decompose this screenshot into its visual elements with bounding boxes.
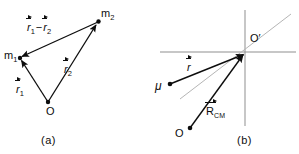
vector-label-r1: r1 <box>16 84 24 95</box>
vector-label-r1-minus-r2: r1−r2 <box>27 22 51 33</box>
panel-a: m1 m2 O r1 r2 r1−r2 (a) <box>0 0 150 154</box>
panel-b-vector-graphic <box>149 0 299 154</box>
r1-subscript: 1 <box>20 89 24 98</box>
point-origin-b-dot <box>188 126 193 131</box>
Rcm-base: R <box>206 105 214 117</box>
point-label-m1: m1 <box>4 50 17 61</box>
vector-label-r: r <box>187 62 191 73</box>
point-label-m2: m2 <box>101 8 114 19</box>
point-origin-dot <box>46 100 50 104</box>
panel-b: O′ μ O r RCM (b) <box>149 0 299 154</box>
r-base: r <box>187 61 191 73</box>
point-label-origin-b: O <box>175 128 184 139</box>
diff-second-subscript: 2 <box>47 27 51 36</box>
Rcm-subscript: CM <box>214 112 225 119</box>
Rcm-overbar-arrow: R <box>206 106 214 117</box>
vector-r1-shaft <box>22 61 49 103</box>
figure-container: m1 m2 O r1 r2 r1−r2 (a) <box>0 0 299 154</box>
m2-subscript: 2 <box>110 13 114 22</box>
point-label-mu: μ <box>155 80 162 92</box>
point-label-origin-prime: O′ <box>250 33 261 44</box>
caption-panel-b: (b) <box>237 135 252 146</box>
m1-base: m <box>4 49 13 61</box>
vector-r2-shaft <box>48 25 96 102</box>
caption-panel-a: (a) <box>41 135 56 146</box>
m2-base: m <box>101 7 110 19</box>
diff-first-subscript: 1 <box>31 27 35 36</box>
vector-label-Rcm: RCM <box>206 106 225 117</box>
point-m2-dot <box>96 19 100 23</box>
m1-subscript: 1 <box>13 55 17 64</box>
r-overbar-arrow: r <box>187 62 191 73</box>
guide-diagonal-line <box>180 14 291 99</box>
origin-a-text: O <box>46 105 55 117</box>
panel-a-vector-graphic <box>0 0 150 154</box>
point-label-origin-a: O <box>46 106 55 117</box>
diff-minus-sign: − <box>36 21 42 33</box>
vector-label-r2: r2 <box>64 64 72 75</box>
point-mu-dot <box>168 82 173 87</box>
point-m1-dot <box>18 56 22 60</box>
r2-subscript: 2 <box>68 69 72 78</box>
